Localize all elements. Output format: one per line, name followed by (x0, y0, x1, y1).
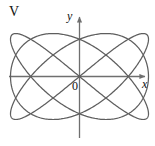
y-axis-label: y (67, 10, 72, 22)
x-axis-label: x (142, 78, 147, 90)
origin-label: 0 (72, 80, 78, 92)
lissajous-plot-svg (0, 0, 155, 146)
lissajous-figure-panel: V y x 0 (0, 0, 155, 146)
panel-label: V (9, 5, 19, 19)
